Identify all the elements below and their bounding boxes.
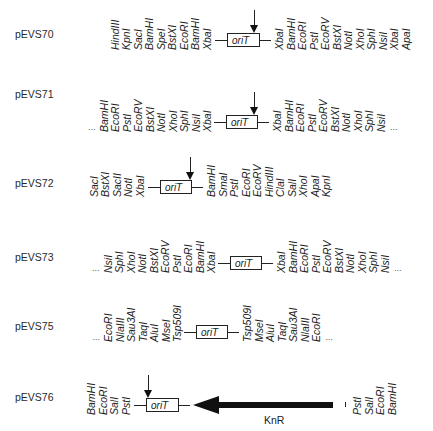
restriction-site-label: XbaI [206, 217, 218, 273]
connector-line-left [215, 40, 227, 41]
plasmid-name: pEVS75 [15, 320, 54, 332]
knr-gene-bar [217, 402, 333, 408]
restriction-site-label: Tsp509I [172, 286, 184, 342]
restriction-site-text: NotI [136, 254, 148, 273]
restriction-site-text: TaqI [276, 322, 288, 342]
restriction-site-text: XhoI [167, 110, 179, 132]
restriction-site-label: NotI [137, 217, 149, 273]
connector-line-right [260, 40, 271, 41]
restriction-site-text: EcoRI [102, 313, 114, 342]
restriction-site-text: HindIII [263, 167, 275, 197]
restriction-site-label: BamHI [387, 359, 399, 415]
restriction-site-text: EcoRI [294, 103, 306, 132]
restriction-site-text: SphI [363, 110, 375, 132]
left-restriction-sites: HindIIIKpnISacIBamHISpeIBstXIEcoRIBamHIX… [110, 0, 214, 50]
restriction-site-text: EcoRI [109, 103, 121, 132]
left-restriction-sites: ...NsiISphIXhoINotIBstXIEcoRVPstIEcoRIBa… [89, 217, 218, 273]
restriction-site-label: PstI [352, 359, 364, 415]
restriction-site-label: EcoRI [311, 286, 323, 342]
restriction-site-text: BstXI [329, 107, 341, 132]
restriction-site-text: SphI [365, 28, 377, 50]
restriction-site-text: PstI [228, 179, 240, 197]
restriction-site-text: XbaI [201, 110, 213, 132]
insertion-arrow-shaft [148, 375, 149, 391]
restriction-site-text: AluI [148, 324, 160, 342]
restriction-site-text: BstXI [166, 25, 178, 50]
restriction-site-label: BamHI [206, 141, 218, 197]
restriction-site-text: XbaI [388, 28, 400, 50]
insertion-arrow-icon [144, 390, 152, 398]
restriction-site-text: EcoRV [319, 18, 331, 51]
restriction-site-label: NotI [345, 217, 357, 273]
restriction-site-label: EcoRV [160, 217, 172, 273]
ellipsis-left: ... [89, 217, 103, 273]
restriction-site-text: XbaI [271, 110, 283, 132]
restriction-site-text: PstI [120, 397, 132, 415]
restriction-site-text: XbaI [273, 28, 285, 50]
restriction-site-text: XhoI [356, 251, 368, 273]
restriction-site-text: PstI [306, 114, 318, 132]
restriction-site-text: NotI [342, 31, 354, 50]
restriction-site-text: SphI [113, 251, 125, 273]
restriction-site-text: NotI [340, 113, 352, 132]
connector-line-left [148, 187, 160, 188]
restriction-site-label: NsiI [380, 217, 392, 273]
insertion-arrow-icon [250, 25, 258, 33]
restriction-site-label: KpnI [121, 0, 133, 50]
plasmid-name: pEVS70 [15, 28, 54, 40]
restriction-site-text: PstI [121, 114, 133, 132]
restriction-site-text: NotI [344, 254, 356, 273]
restriction-site-label: XbaI [272, 76, 284, 132]
restriction-site-label: Sau3AI [126, 286, 138, 342]
restriction-site-label: SphI [114, 217, 126, 273]
restriction-site-text: PstI [171, 255, 183, 273]
ellipsis-right: ... [387, 76, 401, 132]
restriction-site-text: XbaI [201, 28, 213, 50]
restriction-site-text: SacII [111, 173, 123, 197]
restriction-site-text: Sau3AI [125, 308, 137, 342]
restriction-site-label: XhoI [298, 141, 310, 197]
restriction-site-text: NsiI [190, 114, 202, 132]
restriction-site-text: BamHI [85, 383, 97, 415]
restriction-site-text: EcoRV [317, 100, 329, 133]
restriction-site-text: EcoRV [132, 100, 144, 133]
orit-box: oriT [227, 33, 260, 47]
restriction-site-text: NsiI [375, 114, 387, 132]
right-restriction-sites: BamHISmaIPstIEcoRIEcoRVHindIIIClaISalIXh… [206, 141, 333, 197]
left-restriction-sites: ...BamHIEcoRIPstIEcoRVBstXINotIXhoISphIN… [85, 76, 214, 132]
restriction-site-label: BamHI [190, 0, 202, 50]
restriction-site-label: EcoRV [252, 141, 264, 197]
restriction-site-label: SphI [179, 76, 191, 132]
restriction-site-text: XbaI [205, 251, 217, 273]
connector-line-right [258, 122, 269, 123]
restriction-site-text: BamHI [205, 165, 217, 197]
ellipsis-right: ... [323, 286, 337, 342]
restriction-site-text: ClaI [274, 178, 286, 197]
restriction-site-text: EcoRI [298, 244, 310, 273]
restriction-site-label: EcoRV [320, 0, 332, 50]
connector-line-left [218, 263, 230, 264]
restriction-site-text: EcoRI [310, 313, 322, 342]
restriction-site-label: ClaI [275, 141, 287, 197]
plasmid-name: pEVS76 [15, 391, 54, 403]
restriction-site-text: EcoRI [374, 386, 386, 415]
ellipsis-left: ... [85, 76, 99, 132]
restriction-site-label: AluI [265, 286, 277, 342]
restriction-site-text: SphI [367, 251, 379, 273]
restriction-site-text: EcoRI [240, 168, 252, 197]
connector-line-left [134, 405, 146, 406]
restriction-site-text: BamHI [143, 18, 155, 50]
connector-line-left [214, 122, 226, 123]
insertion-arrow-shaft [254, 92, 255, 108]
restriction-site-label: EcoRI [110, 76, 122, 132]
orit-box: oriT [230, 256, 262, 270]
restriction-site-text: EcoRI [178, 21, 190, 50]
right-restriction-sites: Tsp509IMseIAluITaqISau3AINlaIIIEcoRI... [242, 286, 336, 342]
restriction-site-label: PstI [229, 141, 241, 197]
restriction-site-label: BstXI [100, 141, 112, 197]
left-restriction-sites: ...EcoRINlaIIISau3AITaqIAluIMseITsp509I [90, 286, 184, 342]
connector-line-left [184, 332, 196, 333]
restriction-site-text: KpnI [320, 175, 332, 197]
connector-line-right [192, 187, 203, 188]
restriction-site-text: BamHI [285, 18, 297, 50]
